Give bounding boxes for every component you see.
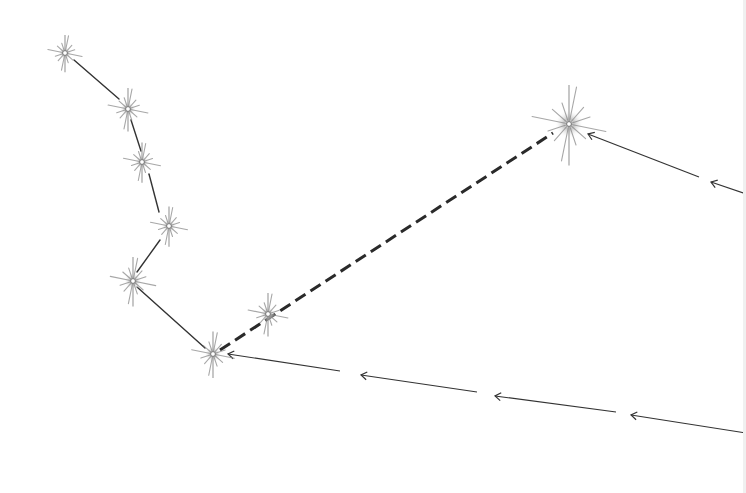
constellation-line [149,174,159,212]
star-icon [248,293,288,336]
constellation-diagram [0,0,746,493]
arrow-segment [588,132,699,177]
arrow-segment [228,351,340,371]
star-icon [192,332,235,379]
star-icon [124,143,161,183]
arrow-segment [495,393,616,412]
constellation-line [74,60,119,99]
constellation-lines [74,60,205,348]
star-icon [48,35,82,72]
constellation-line [137,287,205,348]
arrow-segment [631,412,746,433]
stars [48,35,606,378]
arrow-segment [361,372,477,392]
star-icon [532,85,606,166]
constellation-line [131,120,141,151]
arrow-segment [711,180,746,194]
star-icon [110,257,155,307]
constellation-line [137,240,160,272]
star-icon [151,207,188,247]
